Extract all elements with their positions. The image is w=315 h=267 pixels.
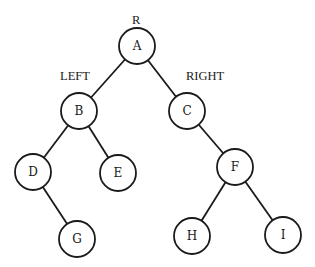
node-label-g: G xyxy=(72,232,82,246)
root-annotation: R xyxy=(132,13,141,27)
node-label-d: D xyxy=(28,165,38,179)
node-label-h: H xyxy=(187,229,197,243)
node-label-b: B xyxy=(75,104,84,118)
right-annotation: RIGHT xyxy=(186,69,225,83)
tree-node-c: C xyxy=(169,93,205,129)
node-label-c: C xyxy=(182,104,191,118)
node-label-e: E xyxy=(114,166,123,180)
tree-node-e: E xyxy=(100,155,136,191)
tree-node-a: A xyxy=(119,28,155,64)
left-annotation: LEFT xyxy=(60,69,90,83)
tree-node-i: I xyxy=(265,217,301,253)
tree-node-f: F xyxy=(217,149,253,185)
tree-node-b: B xyxy=(61,93,97,129)
node-label-i: I xyxy=(281,228,286,242)
tree-node-d: D xyxy=(15,154,51,190)
binary-tree-diagram: R LEFT RIGHT A B C D E F G H I xyxy=(0,0,315,267)
tree-node-h: H xyxy=(174,218,210,254)
node-label-a: A xyxy=(132,39,142,53)
tree-node-g: G xyxy=(59,221,95,257)
node-label-f: F xyxy=(231,160,239,174)
